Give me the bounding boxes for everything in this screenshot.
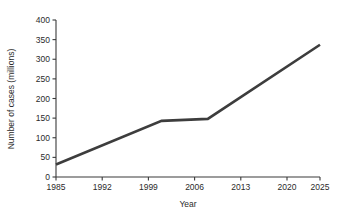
series-group [56,45,320,165]
x-tick-label: 2013 [231,182,250,192]
y-axis-ticks: 050100150200250300350400 [36,15,56,182]
x-tick-label: 1992 [93,182,112,192]
axes-group [56,20,320,177]
y-tick-label: 350 [36,35,50,45]
y-tick-label: 300 [36,54,50,64]
data-line-number-of-cases [56,45,320,165]
chart-page: 050100150200250300350400 198519921999200… [0,0,345,220]
x-tick-label: 2025 [311,182,330,192]
x-axis-ticks: 1985199219992006201320202025 [47,177,330,192]
y-tick-label: 400 [36,15,50,25]
y-tick-label: 50 [41,152,51,162]
y-axis-title: Number of cases (millions) [6,49,16,150]
x-tick-label: 1999 [139,182,158,192]
x-tick-label: 1985 [47,182,66,192]
y-tick-label: 0 [45,172,50,182]
line-chart: 050100150200250300350400 198519921999200… [0,0,345,220]
y-tick-label: 100 [36,133,50,143]
y-tick-label: 250 [36,74,50,84]
y-tick-label: 200 [36,94,50,104]
y-tick-label: 150 [36,113,50,123]
x-tick-label: 2020 [278,182,297,192]
x-axis-title: Year [179,199,196,209]
x-tick-label: 2006 [185,182,204,192]
